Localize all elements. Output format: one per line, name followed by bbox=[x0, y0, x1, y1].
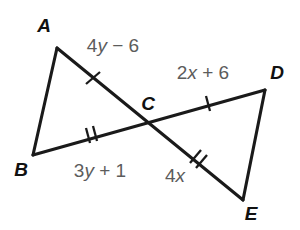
measure-label-ce: 4x bbox=[165, 165, 187, 186]
vertex-label-b: B bbox=[14, 159, 28, 180]
vertex-label-a: A bbox=[36, 15, 51, 36]
measure-label-bc: 3y + 1 bbox=[74, 160, 126, 181]
measure-label-ce-var: x bbox=[175, 165, 187, 186]
geometry-diagram: A B C D E 4y − 6 2x + 6 3y + 1 4x bbox=[0, 0, 300, 230]
measure-label-ac-pre: 4 bbox=[87, 35, 98, 56]
measure-label-bc-pre: 3 bbox=[74, 160, 85, 181]
measure-label-ce-pre: 4 bbox=[165, 165, 176, 186]
measure-label-ac-post: − 6 bbox=[107, 35, 139, 56]
measure-label-cd: 2x + 6 bbox=[177, 62, 229, 83]
vertex-label-c: C bbox=[141, 93, 155, 114]
measure-label-ac: 4y − 6 bbox=[87, 35, 139, 56]
tick-ce-icon bbox=[190, 150, 207, 168]
vertex-label-d: D bbox=[270, 62, 284, 83]
tick-cd-icon bbox=[206, 96, 210, 111]
geometry-figure: A B C D E 4y − 6 2x + 6 3y + 1 4x bbox=[0, 0, 300, 230]
measure-label-cd-post: + 6 bbox=[197, 62, 229, 83]
measure-label-bc-post: + 1 bbox=[94, 160, 126, 181]
measure-label-cd-pre: 2 bbox=[177, 62, 188, 83]
vertex-label-e: E bbox=[245, 203, 259, 224]
segment-de bbox=[243, 90, 265, 200]
segment-ab bbox=[33, 48, 57, 155]
